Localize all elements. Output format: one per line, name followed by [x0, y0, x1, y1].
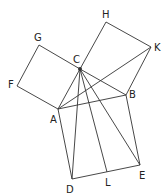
segment-af [17, 86, 58, 109]
label-point-h: H [102, 9, 110, 20]
segment-cd [72, 69, 80, 179]
segment-cb [80, 69, 126, 95]
segment-ce [80, 69, 140, 165]
segment-kb [126, 47, 151, 95]
label-point-d: D [66, 184, 74, 195]
label-point-a: A [50, 114, 57, 125]
label-point-k: K [154, 42, 161, 53]
segment-ad [58, 109, 72, 179]
segment-ch [80, 22, 106, 69]
label-point-g: G [34, 32, 42, 43]
label-point-f: F [8, 79, 14, 90]
segment-cl [80, 69, 107, 172]
label-point-l: L [105, 177, 111, 188]
diagram-segments [17, 22, 151, 179]
label-point-c: C [73, 54, 80, 65]
segment-fg [17, 45, 39, 86]
segment-hk [106, 22, 151, 47]
pythagorean-proof-diagram: ABCDEFGHKL [0, 0, 162, 195]
segment-ac [58, 69, 80, 109]
diagram-labels: ABCDEFGHKL [8, 9, 161, 195]
label-point-b: B [129, 89, 136, 100]
vertex-c-marker [78, 67, 82, 71]
label-point-e: E [139, 170, 145, 181]
